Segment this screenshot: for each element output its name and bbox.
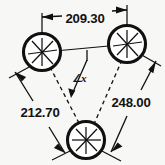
dimension-right-248: 248.00	[100, 54, 161, 161]
dimension-label-left: 212.70	[20, 105, 59, 120]
dimension-label-right: 248.00	[111, 95, 150, 110]
angle-variable-label: x	[80, 72, 87, 84]
drawing-svg: 209.30 212.70	[0, 0, 165, 165]
hole-bottom[interactable]	[68, 122, 105, 159]
arrowhead-right-upper	[148, 61, 156, 73]
dimension-left-212: 212.70	[9, 66, 72, 160]
hole-right[interactable]	[109, 26, 146, 63]
centerline-right-leg-dashed	[94, 60, 122, 124]
arrowhead-top-left	[42, 13, 53, 20]
dimension-label-top: 209.30	[65, 11, 104, 26]
arrowhead-top-right	[116, 7, 127, 14]
hole-left[interactable]	[24, 34, 61, 71]
angle-indicator: ∠ x	[68, 50, 87, 98]
technical-drawing-canvas: 209.30 212.70	[0, 0, 165, 165]
